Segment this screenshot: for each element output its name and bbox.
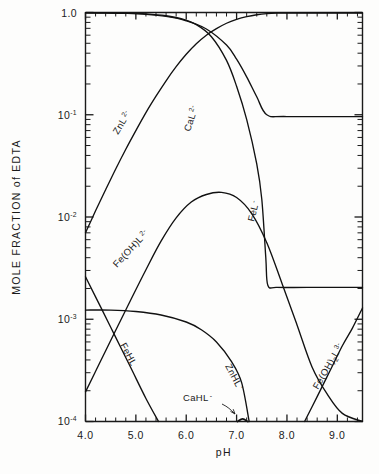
x-tick-label-1: 5.0 — [128, 429, 144, 441]
svg-text:FeHL: FeHL — [118, 341, 139, 368]
x-tick-label-0: 4.0 — [77, 429, 93, 441]
y-tick-label-4: 10-4 — [58, 415, 77, 427]
svg-text:CaL2-: CaL2- — [181, 104, 200, 133]
y-tick-label-3: 10-3 — [58, 313, 77, 325]
chart-svg: ZnL2- CaL2- FeL- Fe(OH)L2- F — [0, 0, 379, 474]
y-axis-title: MOLE FRACTION of EDTA — [10, 139, 22, 294]
svg-text:CaHL-: CaHL- — [183, 392, 212, 403]
y-tick-label-2: 10-2 — [58, 211, 77, 223]
x-axis-title: pH — [216, 446, 232, 458]
curve-label-feohl: Fe(OH)L2- — [110, 227, 150, 269]
svg-text:ZnL2-: ZnL2- — [110, 108, 133, 136]
curve-label-cahl: CaHL- — [183, 392, 212, 403]
svg-text:Fe(OH)L2-: Fe(OH)L2- — [110, 227, 150, 269]
curve-label-znl: ZnL2- — [110, 108, 133, 136]
y-tick-labels: 1.0 10-1 10-2 10-3 10-4 — [58, 7, 77, 427]
curve-labels: ZnL2- CaL2- FeL- Fe(OH)L2- F — [110, 104, 347, 414]
y-tick-label-0: 1.0 — [61, 7, 77, 19]
y-tick-label-1: 10-1 — [58, 109, 77, 121]
curve-label-znhl: ZnHL- — [223, 362, 246, 392]
x-tick-label-2: 6.0 — [178, 429, 194, 441]
svg-text:ZnHL-: ZnHL- — [223, 362, 246, 392]
x-tick-labels: 4.05.06.07.08.09.0 — [77, 429, 345, 441]
curve-label-fel: FeL- — [245, 199, 261, 222]
x-tick-label-5: 9.0 — [329, 429, 345, 441]
x-tick-label-4: 8.0 — [279, 429, 295, 441]
curve-label-cal: CaL2- — [181, 104, 200, 133]
chart-figure: ZnL2- CaL2- FeL- Fe(OH)L2- F — [0, 0, 379, 474]
svg-text:FeL-: FeL- — [245, 199, 261, 222]
x-tick-label-3: 7.0 — [228, 429, 244, 441]
curve-label-fehl: FeHL — [118, 341, 139, 368]
curve-cal — [86, 13, 363, 117]
